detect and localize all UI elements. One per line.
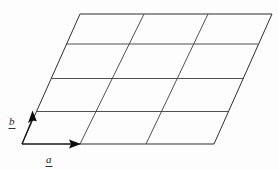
lattice-figure: b a [0, 0, 279, 170]
vector-a [22, 140, 81, 149]
vector-b-label-group: b [9, 115, 16, 129]
vector-a-label: a [46, 153, 52, 165]
vector-a-label-group: a [46, 153, 53, 167]
column-gridline-2 [146, 14, 208, 144]
column-gridlines [80, 14, 208, 144]
lattice-outline [22, 14, 272, 144]
lattice-diagram: b a [0, 0, 279, 170]
vector-b-label: b [9, 115, 15, 127]
column-gridline-1 [80, 14, 144, 144]
row-gridlines [37, 44, 259, 112]
